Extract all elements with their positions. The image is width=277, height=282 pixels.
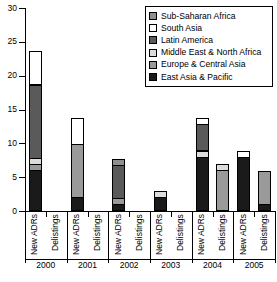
bar-segment bbox=[154, 197, 167, 211]
legend-item[interactable]: Middle East & North Africa bbox=[149, 47, 268, 59]
legend-swatch-icon bbox=[149, 24, 157, 32]
x-axis-item-label: Delistings bbox=[51, 214, 60, 260]
legend-swatch-icon bbox=[149, 61, 157, 69]
bar-segment bbox=[237, 157, 250, 211]
bar-segment bbox=[216, 170, 229, 211]
bar-stack bbox=[154, 191, 167, 211]
x-axis-item-label: New ADRs bbox=[114, 214, 123, 260]
legend-swatch-icon bbox=[149, 12, 157, 20]
x-axis-divider bbox=[213, 212, 214, 217]
chart-legend: Sub-Saharan AfricaSouth AsiaLatin Americ… bbox=[145, 6, 273, 87]
bar-segment bbox=[29, 170, 42, 211]
x-axis-divider bbox=[192, 212, 193, 259]
x-axis-year-label: 2000 bbox=[25, 261, 67, 270]
x-axis-year-label: 2003 bbox=[150, 261, 192, 270]
legend-item-label: Middle East & North Africa bbox=[161, 48, 261, 57]
x-axis-item-label: New ADRs bbox=[239, 214, 248, 260]
x-axis-item-label: New ADRs bbox=[155, 214, 164, 260]
bar-segment bbox=[196, 157, 209, 211]
bar-segment bbox=[258, 171, 271, 205]
x-axis-divider bbox=[46, 212, 47, 217]
bar-segment bbox=[258, 204, 271, 211]
x-axis-year-label: 2002 bbox=[108, 261, 150, 270]
x-axis-item-label: Delistings bbox=[260, 214, 269, 260]
year-tick bbox=[233, 259, 234, 263]
stacked-bar-chart: 051015202530 New ADRsDelistingsNew ADRsD… bbox=[0, 0, 277, 282]
bar-stack bbox=[216, 164, 229, 211]
x-axis-divider bbox=[88, 212, 89, 217]
x-axis-divider bbox=[233, 212, 234, 259]
x-axis-item-label: Delistings bbox=[176, 214, 185, 260]
legend-item-label: Latin America bbox=[161, 36, 213, 45]
x-axis-divider bbox=[67, 212, 68, 259]
legend-item[interactable]: Europe & Central Asia bbox=[149, 59, 268, 71]
bar-stack bbox=[29, 51, 42, 211]
x-axis-item-label: Delistings bbox=[218, 214, 227, 260]
x-axis-year-label: 2001 bbox=[67, 261, 109, 270]
bar-segment bbox=[196, 124, 209, 151]
x-axis-divider bbox=[129, 212, 130, 217]
bar-segment bbox=[29, 85, 42, 159]
x-axis-item-label: Delistings bbox=[135, 214, 144, 260]
legend-item[interactable]: Latin America bbox=[149, 34, 268, 46]
bar-segment bbox=[71, 197, 84, 211]
x-axis-divider bbox=[254, 212, 255, 217]
y-axis-tick-label: 10 bbox=[0, 139, 17, 148]
x-axis-divider bbox=[275, 212, 276, 259]
bar-stack bbox=[196, 118, 209, 211]
bar-segment bbox=[112, 204, 125, 211]
bar-segment bbox=[71, 144, 84, 198]
bar-stack bbox=[112, 159, 125, 211]
year-tick bbox=[108, 259, 109, 263]
legend-item-label: East Asia & Pacific bbox=[161, 73, 233, 82]
y-axis-tick-label: 25 bbox=[0, 37, 17, 46]
y-axis-tick-label: 20 bbox=[0, 71, 17, 80]
x-axis-year-label: 2004 bbox=[192, 261, 234, 270]
year-tick bbox=[275, 259, 276, 263]
y-axis-tick-label: 5 bbox=[0, 173, 17, 182]
x-axis-item-label: New ADRs bbox=[72, 214, 81, 260]
bar-stack bbox=[258, 171, 271, 211]
x-axis-year-label: 2005 bbox=[233, 261, 275, 270]
legend-swatch-icon bbox=[149, 73, 157, 81]
legend-swatch-icon bbox=[149, 36, 157, 44]
bar-stack bbox=[71, 118, 84, 211]
legend-item[interactable]: East Asia & Pacific bbox=[149, 71, 268, 83]
x-axis-item-label: New ADRs bbox=[197, 214, 206, 260]
x-axis-divider bbox=[150, 212, 151, 259]
x-axis-divider bbox=[171, 212, 172, 217]
year-tick bbox=[67, 259, 68, 263]
legend-item-label: Sub-Saharan Africa bbox=[161, 12, 236, 21]
y-axis-tick-label: 0 bbox=[0, 207, 17, 216]
bar-stack bbox=[237, 151, 250, 211]
legend-item[interactable]: South Asia bbox=[149, 22, 268, 34]
legend-swatch-icon bbox=[149, 49, 157, 57]
year-tick bbox=[150, 259, 151, 263]
x-axis-item-label: Delistings bbox=[93, 214, 102, 260]
x-axis-divider bbox=[25, 212, 26, 259]
year-tick bbox=[25, 259, 26, 263]
bar-segment bbox=[112, 165, 125, 199]
y-axis-tick-label: 30 bbox=[0, 4, 17, 13]
legend-item-label: Europe & Central Asia bbox=[161, 60, 246, 69]
bar-segment bbox=[71, 118, 84, 145]
bar-segment bbox=[29, 51, 42, 85]
year-tick bbox=[192, 259, 193, 263]
y-axis-tick-label: 15 bbox=[0, 105, 17, 114]
legend-item[interactable]: Sub-Saharan Africa bbox=[149, 10, 268, 22]
x-axis-divider bbox=[108, 212, 109, 259]
legend-item-label: South Asia bbox=[161, 24, 202, 33]
x-axis-item-label: New ADRs bbox=[30, 214, 39, 260]
